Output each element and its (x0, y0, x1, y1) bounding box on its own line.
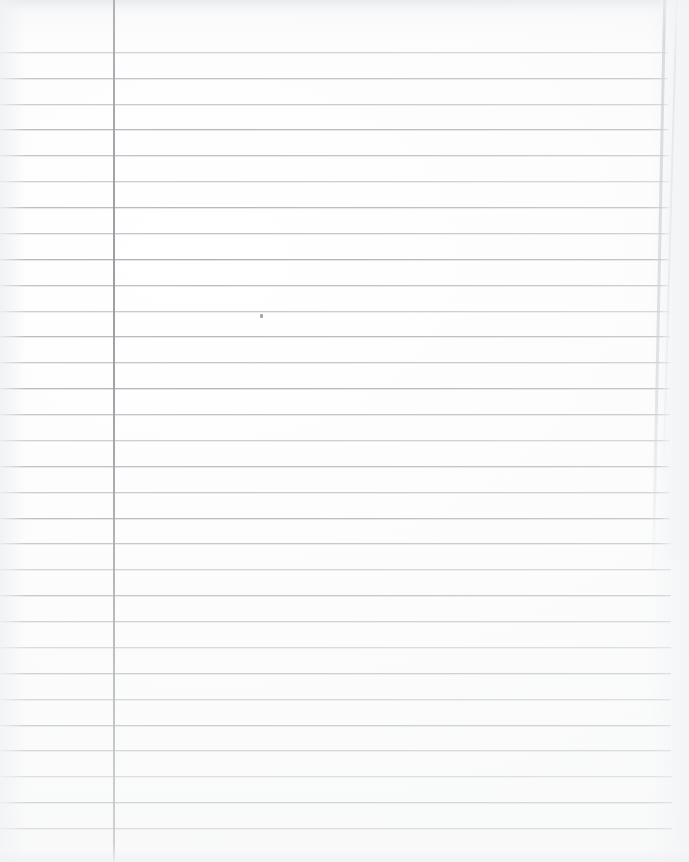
ruling-line (0, 259, 669, 260)
scan-bottom-streak (0, 844, 689, 862)
scan-top-streak (0, 0, 689, 16)
margin-rule-vertical (113, 0, 115, 862)
ruling-line (0, 492, 670, 493)
ruling-line (0, 129, 669, 130)
ruling-line (0, 414, 670, 415)
ruling-line (0, 52, 668, 53)
ruling-line (0, 725, 671, 726)
ruling-line (0, 699, 671, 700)
ruling-line (0, 233, 669, 234)
ruling-line (0, 207, 669, 208)
ruling-line (0, 181, 669, 182)
ruling-line (0, 802, 672, 803)
ruling-line (0, 569, 671, 570)
ruling-line (0, 828, 672, 829)
ruling-line (0, 285, 669, 286)
ruling-line (0, 518, 670, 519)
scanned-page (0, 0, 689, 862)
ruling-line (0, 362, 670, 363)
ruling-line (0, 647, 671, 648)
ruling-line (0, 776, 672, 777)
ruling-line (0, 750, 671, 751)
ruling-line (0, 78, 668, 79)
ruling-line (0, 440, 670, 441)
ruling-line (0, 543, 671, 544)
ruling-line (0, 595, 671, 596)
ruling-line (0, 336, 670, 337)
ruling-line (0, 311, 669, 312)
ruling-line (0, 621, 671, 622)
ruling-line (0, 673, 671, 674)
scan-speck (260, 314, 263, 318)
ruling-line (0, 104, 668, 105)
ruling-line (0, 466, 670, 467)
ruling-line (0, 388, 670, 389)
ruling-line (0, 155, 669, 156)
